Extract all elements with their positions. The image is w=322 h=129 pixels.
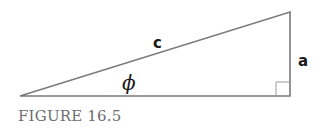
triangle xyxy=(20,12,290,96)
hypotenuse-label: c xyxy=(153,34,162,52)
right-angle-marker xyxy=(276,82,290,96)
angle-phi-label: ϕ xyxy=(122,71,136,95)
side-a-label: a xyxy=(298,52,308,70)
figure-caption: FIGURE 16.5 xyxy=(18,107,122,125)
